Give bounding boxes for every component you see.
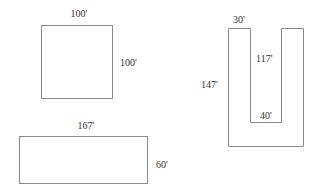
rectangle-outline — [20, 137, 148, 184]
diagram-canvas: 100' 100' 167' 60' 30' 117' 147' 40' — [0, 0, 320, 195]
rectangle-top-label: 167' — [78, 120, 95, 131]
rectangle-figure: 167' 60' — [20, 120, 169, 184]
square-figure: 100' 100' — [42, 8, 138, 99]
square-side-label: 100' — [120, 57, 137, 68]
square-outline — [42, 26, 113, 99]
square-top-label: 100' — [71, 8, 88, 19]
u-shape-figure: 30' 117' 147' 40' — [201, 14, 304, 147]
rectangle-side-label: 60' — [156, 159, 168, 170]
u-shape-outline — [229, 29, 304, 147]
u-inner-height-label: 117' — [256, 53, 273, 64]
u-outer-height-label: 147' — [201, 79, 218, 90]
u-inner-width-label: 40' — [260, 110, 272, 121]
u-arm-width-label: 30' — [233, 14, 245, 25]
